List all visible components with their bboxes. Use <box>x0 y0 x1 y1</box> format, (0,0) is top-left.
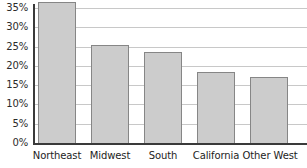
y-axis-tick-label: 15% <box>6 80 28 90</box>
x-axis-category-label: Other West <box>243 150 296 162</box>
x-axis-category-label: Midwest <box>84 150 137 162</box>
bar-chart: 0%5%10%15%20%25%30%35% NortheastMidwestS… <box>0 0 307 168</box>
bar <box>250 77 288 143</box>
x-axis-category-label: California <box>190 150 243 162</box>
y-axis-tick-label: 30% <box>6 22 28 32</box>
y-axis-tick-label: 25% <box>6 42 28 52</box>
y-axis-tick-label: 35% <box>6 3 28 13</box>
bars <box>33 0 307 143</box>
y-axis-tick-label: 5% <box>13 119 28 129</box>
y-axis-tick-labels: 0%5%10%15%20%25%30%35% <box>0 0 31 168</box>
x-axis-category-labels: NortheastMidwestSouthCaliforniaOther Wes… <box>33 147 307 168</box>
x-axis-line <box>33 143 307 145</box>
x-axis-category-label: South <box>137 150 190 162</box>
bar <box>197 72 235 143</box>
y-axis-tick-label: 10% <box>6 99 28 109</box>
bar <box>144 52 182 143</box>
y-axis-tick-label: 0% <box>13 138 28 148</box>
x-axis-category-label: Northeast <box>31 150 84 162</box>
bar <box>38 2 76 143</box>
bar <box>91 45 129 143</box>
y-axis-tick-label: 20% <box>6 61 28 71</box>
